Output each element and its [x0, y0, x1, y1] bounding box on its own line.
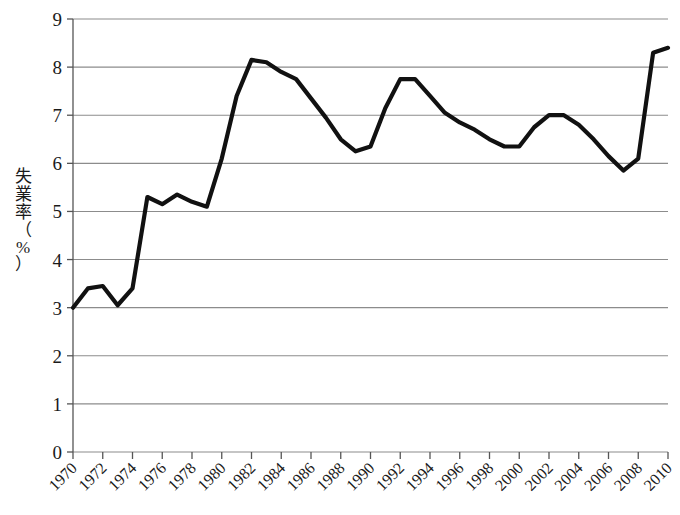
x-axis-tick-label: 2008 [611, 459, 646, 494]
y-axis-tick-label: 6 [53, 153, 63, 174]
y-axis-title-percent-symbol: % [6, 239, 40, 256]
y-axis-tick-label: 4 [53, 250, 63, 271]
y-axis-tick-label: 0 [53, 442, 63, 463]
x-axis-tick-label: 2000 [492, 459, 527, 494]
y-axis-tick-label: 7 [53, 105, 63, 126]
y-axis-title-char-3: 率 [6, 204, 40, 222]
x-axis-tick-label: 1988 [313, 459, 348, 494]
y-axis-title-paren-open: （ [6, 222, 40, 240]
y-axis-tick-label: 1 [53, 394, 63, 415]
x-axis-tick-label: 1976 [135, 459, 170, 494]
x-axis-tick-label: 1980 [194, 459, 229, 494]
x-axis-tick-label: 1986 [283, 459, 318, 494]
y-axis-tick-label: 3 [53, 298, 63, 319]
gridlines-group [73, 19, 668, 452]
x-axis-tick-label: 1974 [105, 459, 140, 494]
x-axis-tick-label: 1978 [164, 459, 199, 494]
x-axis-ticks-group [73, 452, 668, 459]
x-axis-tick-label: 1982 [224, 459, 259, 494]
x-axis-tick-label: 1984 [254, 459, 289, 494]
x-axis-tick-label: 2004 [551, 459, 586, 494]
y-axis-title-char-1: 失 [6, 168, 40, 186]
y-axis-title-paren-close: ） [6, 256, 40, 274]
x-axis-tick-label: 1990 [343, 459, 378, 494]
y-axis-title-char-2: 業 [6, 186, 40, 204]
y-axis-tick-label: 9 [53, 9, 63, 30]
plot-area: 0123456789 19701972197419761978198019821… [0, 0, 680, 515]
y-axis-ticks-group [67, 19, 73, 452]
x-axis-tick-label: 1994 [402, 459, 437, 494]
y-axis-tick-label: 5 [53, 201, 63, 222]
x-axis-tick-label: 1996 [432, 459, 467, 494]
x-axis-tick-label: 1998 [462, 459, 497, 494]
unemployment-rate-line-chart: 失 業 率 （ % ） 0123456789 19701972197419761… [0, 0, 680, 515]
x-axis-tick-label: 2006 [581, 459, 616, 494]
x-axis-tick-label: 2002 [521, 459, 556, 494]
y-axis-tick-labels-group: 0123456789 [53, 9, 63, 463]
x-axis-tick-label: 1970 [45, 459, 80, 494]
x-axis-tick-label: 1972 [75, 459, 110, 494]
unemployment-rate-series-line [73, 48, 668, 308]
y-axis-title: 失 業 率 （ % ） [6, 168, 40, 274]
x-axis-tick-label: 1992 [373, 459, 408, 494]
y-axis-tick-label: 2 [53, 346, 63, 367]
x-axis-tick-labels-group: 1970197219741976197819801982198419861988… [45, 459, 675, 494]
y-axis-tick-label: 8 [53, 57, 63, 78]
x-axis-tick-label: 2010 [640, 459, 675, 494]
